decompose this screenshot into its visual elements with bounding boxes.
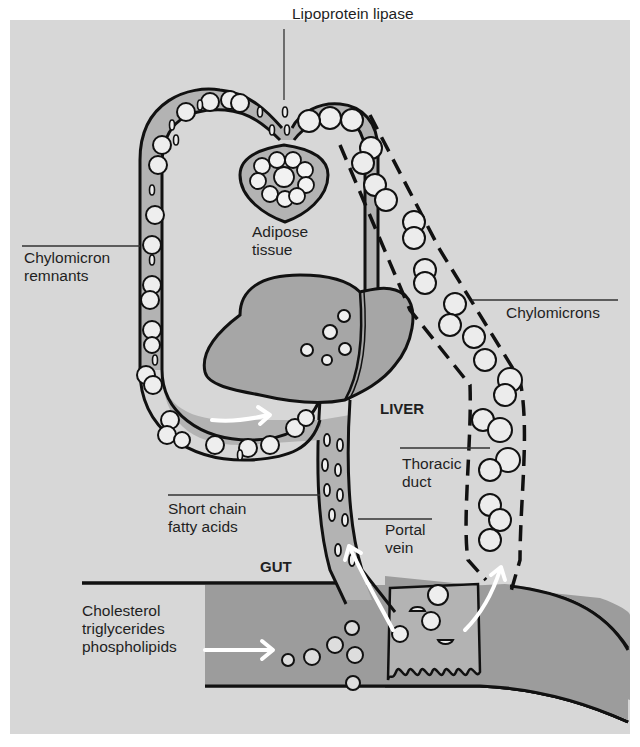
label-adipose-tissue: Adipose tissue	[252, 223, 308, 259]
lipid-transport-diagram: Lipoprotein lipase Adipose tissue Chylom…	[0, 0, 640, 747]
label-short-chain-fatty-acids: Short chain fatty acids	[168, 500, 246, 536]
enterocyte-cell	[388, 584, 480, 680]
label-thoracic-duct: Thoracic duct	[402, 455, 461, 491]
label-lipoprotein-lipase: Lipoprotein lipase	[292, 5, 414, 23]
label-dietary-lipids: Cholesterol triglycerides phospholipids	[82, 602, 177, 656]
label-liver: LIVER	[380, 400, 424, 418]
label-chylomicrons: Chylomicrons	[506, 304, 600, 322]
label-portal-vein: Portal vein	[385, 521, 426, 557]
label-chylomicron-remnants: Chylomicron remnants	[24, 249, 110, 285]
label-gut: GUT	[260, 558, 292, 576]
